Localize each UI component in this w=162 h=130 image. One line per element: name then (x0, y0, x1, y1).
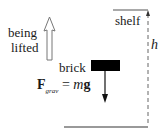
brick-label: brick (59, 61, 86, 74)
shelf-label: shelf (115, 14, 140, 27)
mass-symbol: m (73, 77, 83, 92)
lifted-label: lifted (11, 41, 38, 54)
gravity-arrow-icon (102, 71, 108, 103)
force-symbol: F (37, 77, 46, 92)
equals-sign: = (62, 77, 70, 92)
height-label: h (151, 38, 158, 51)
force-subscript: grav (46, 87, 59, 95)
brick (91, 60, 120, 71)
lift-arrow-icon (44, 17, 55, 60)
gravity-force-equation: Fgrav = mg (37, 78, 90, 98)
height-arrowhead-icon (146, 10, 150, 16)
being-label: being (8, 26, 37, 39)
gravity-accel-symbol: g (83, 77, 90, 92)
